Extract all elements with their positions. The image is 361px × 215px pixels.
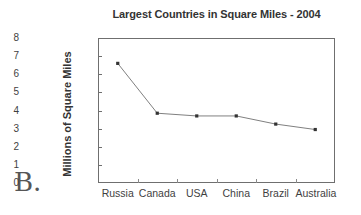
y-tick-label: 8 [0, 33, 19, 43]
data-point-marker [314, 128, 317, 131]
figure-container: B. Largest Countries in Square Miles - 2… [0, 0, 361, 215]
y-tick-label: 2 [0, 142, 19, 152]
chart-title: Largest Countries in Square Miles - 2004 [98, 8, 335, 20]
y-tick-label: 0 [0, 178, 19, 188]
y-tick-label: 1 [0, 160, 19, 170]
y-tick-label: 4 [0, 106, 19, 116]
data-point-marker [235, 114, 238, 117]
x-tick-label: China [217, 188, 257, 199]
x-tick-label: Brazil [256, 188, 296, 199]
x-tick-label: USA [177, 188, 217, 199]
line-series-svg [98, 38, 335, 183]
y-tick-label: 5 [0, 87, 19, 97]
data-point-marker [195, 114, 198, 117]
data-point-marker [116, 62, 119, 65]
x-tick-label: Australia [296, 188, 336, 199]
y-tick-label: 6 [0, 69, 19, 79]
y-axis-title: Millions of Square Miles [61, 39, 73, 189]
data-line [118, 63, 316, 129]
y-tick-label: 7 [0, 51, 19, 61]
x-tick-label: Canada [138, 188, 178, 199]
x-tick-label: Russia [98, 188, 138, 199]
data-point-marker [156, 112, 159, 115]
data-point-marker [274, 122, 277, 125]
y-tick-label: 3 [0, 124, 19, 134]
